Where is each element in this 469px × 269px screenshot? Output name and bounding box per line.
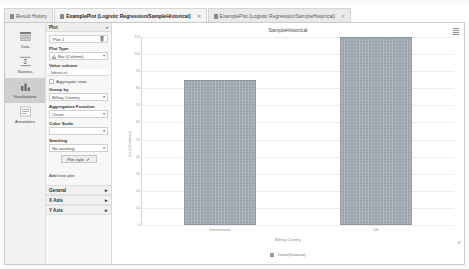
- y-axis-tick-label: 60: [136, 120, 140, 124]
- y-axis-tick-label: 10: [136, 206, 140, 210]
- tab-exampleplot-2[interactable]: ExamplePlot (Logistic Regression/SampleH…: [208, 8, 351, 23]
- y-axis-tick-label: 80: [136, 86, 140, 90]
- sidebar-item-data[interactable]: Data: [5, 28, 45, 53]
- chevron-down-icon: ▾: [103, 95, 105, 99]
- history-icon: [10, 14, 14, 19]
- plot-type-select[interactable]: Bar (Column) ▾: [49, 52, 108, 60]
- chevron-down-icon: ▾: [103, 54, 105, 58]
- chart-legend: Count(Invoices): [112, 252, 464, 257]
- chevron-right-icon[interactable]: ▸: [105, 188, 108, 193]
- tab-result-history[interactable]: Result History: [4, 8, 53, 23]
- y-axis-title: Count(Invoices): [128, 130, 132, 157]
- y-axis-tick-label: 110: [134, 35, 140, 39]
- add-new-plot-button[interactable]: Add new plot: [46, 170, 111, 181]
- plot-section-header[interactable]: Plot ▾: [46, 23, 111, 32]
- y-axis-tick-label: 40: [136, 155, 140, 159]
- checkbox-icon[interactable]: [49, 79, 54, 84]
- plot-icon: [60, 14, 64, 19]
- aggregation-function-label: Aggregation Function: [49, 104, 108, 109]
- sigma-icon: Σ: [19, 56, 32, 67]
- y-axis-tick-label: 100: [134, 52, 140, 56]
- plot-icon: [214, 14, 218, 19]
- legend-swatch: [270, 253, 274, 257]
- chart-title: SampleHistorical: [112, 27, 464, 33]
- aggregation-function-value: Count: [52, 112, 101, 117]
- group-by-value: Billing Country: [52, 95, 101, 100]
- plot-type-value: Bar (Column): [58, 54, 101, 59]
- aggregate-rows-label: Aggregate rows: [56, 79, 87, 84]
- main-window: Data Σ Statistics Visualizations: [4, 22, 465, 265]
- legend-label: Count(Invoices): [277, 252, 305, 257]
- sidebar-item-visualizations[interactable]: Visualizations: [5, 78, 45, 103]
- y-axis-tick-label: 30: [136, 172, 140, 176]
- x-axis-title: Billing Country: [112, 237, 464, 242]
- chevron-down-icon[interactable]: ▾: [106, 25, 108, 30]
- section-general[interactable]: General ▸: [46, 185, 111, 195]
- aggregation-function-select[interactable]: Count ▾: [49, 110, 108, 118]
- chevron-down-icon: ▾: [103, 112, 105, 116]
- sidebar-rail: Data Σ Statistics Visualizations: [5, 23, 46, 264]
- chevron-right-icon[interactable]: ▸: [105, 198, 108, 203]
- close-icon[interactable]: ✕: [341, 13, 345, 19]
- delete-icon[interactable]: [100, 36, 104, 42]
- sidebar-item-label: Annotations: [15, 119, 35, 124]
- aggregate-rows-checkbox-row[interactable]: Aggregate rows: [49, 79, 108, 84]
- y-axis-tick-label: 50: [136, 138, 140, 142]
- plot-type-label: Plot Type: [49, 46, 108, 51]
- notes-icon: [19, 106, 32, 117]
- bar-chart-icon: [52, 54, 56, 59]
- tab-label: ExamplePlot (Logistic Regression/SampleH…: [66, 13, 190, 19]
- value-column-label: Value column: [49, 63, 108, 68]
- chart-area: SampleHistorical Count(Invoices) 1101009…: [112, 23, 464, 264]
- plot-canvas: 1101009080706050403020100InternationalUS: [141, 37, 454, 226]
- tab-exampleplot-1[interactable]: ExamplePlot (Logistic Regression/SampleH…: [54, 8, 206, 23]
- add-new-plot-label: Add new plot: [49, 173, 74, 178]
- section-y-axis-label: Y Axis: [49, 208, 63, 213]
- sidebar-item-statistics[interactable]: Σ Statistics: [5, 53, 45, 78]
- close-icon[interactable]: ✕: [197, 13, 201, 19]
- resize-grip-icon[interactable]: ◢: [457, 239, 460, 244]
- app-window: Result History ExamplePlot (Logistic Reg…: [0, 0, 469, 269]
- sidebar-item-label: Visualizations: [14, 94, 37, 99]
- section-general-label: General: [49, 188, 66, 193]
- chevron-right-icon[interactable]: ▸: [105, 208, 108, 213]
- tab-label: ExamplePlot (Logistic Regression/SampleH…: [220, 13, 335, 19]
- sidebar-item-label: Data: [21, 44, 29, 49]
- y-axis-tick-label: 70: [136, 103, 140, 107]
- value-column-value: Idenacct: [51, 70, 67, 75]
- svg-text:Σ: Σ: [23, 58, 27, 66]
- section-x-axis-label: X Axis: [49, 198, 63, 203]
- group-by-label: Group by: [49, 87, 108, 92]
- table-icon: [19, 31, 32, 42]
- group-by-select[interactable]: Billing Country ▾: [49, 93, 108, 101]
- plot-name-row[interactable]: Plot 1: [49, 35, 108, 43]
- y-axis-tick-label: 90: [136, 69, 140, 73]
- brush-icon: [86, 157, 90, 161]
- section-y-axis[interactable]: Y Axis ▸: [46, 205, 111, 215]
- tab-label: Result History: [16, 13, 47, 19]
- stacking-value: No stacking: [52, 146, 101, 151]
- section-x-axis[interactable]: X Axis ▸: [46, 195, 111, 205]
- plot-style-label: Plot style: [67, 157, 84, 162]
- sidebar-item-annotations[interactable]: Annotations: [5, 103, 45, 128]
- color-scale-select[interactable]: ▾: [49, 127, 108, 135]
- chart-icon: [19, 81, 32, 92]
- chart-bar[interactable]: [184, 80, 256, 225]
- gridline: [142, 225, 454, 226]
- stacking-select[interactable]: No stacking ▾: [49, 144, 108, 152]
- value-column-input[interactable]: Idenacct: [49, 69, 108, 76]
- chevron-down-icon: ▾: [103, 129, 105, 133]
- chart-menu-button[interactable]: [453, 28, 459, 36]
- y-axis-tick-label: 20: [136, 189, 140, 193]
- sidebar-item-label: Statistics: [17, 69, 32, 74]
- x-axis-tick-label: US: [373, 228, 378, 232]
- plot-settings-panel: Plot ▾ Plot 1 Plot Type: [46, 23, 112, 264]
- x-axis-tick-label: International: [210, 228, 231, 232]
- y-axis-tick-label: 0: [138, 223, 140, 227]
- plot-settings-body: Plot 1 Plot Type Bar (Column) ▾: [46, 32, 111, 166]
- plot-section-title: Plot: [49, 25, 58, 30]
- plot-style-button[interactable]: Plot style: [61, 155, 97, 163]
- stacking-label: Stacking: [49, 138, 108, 143]
- chart-bar[interactable]: [340, 37, 412, 225]
- chevron-down-icon: ▾: [103, 146, 105, 150]
